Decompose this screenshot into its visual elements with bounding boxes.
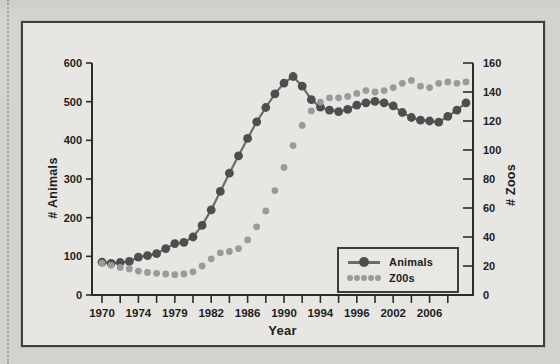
x-axis-tick-label: 2002 xyxy=(380,307,406,319)
data-point xyxy=(161,244,170,253)
data-point xyxy=(454,80,461,87)
chart-frame: 0100200300400500600020406080100120140160… xyxy=(21,21,545,347)
data-point xyxy=(243,134,252,143)
data-point xyxy=(253,223,260,230)
data-point xyxy=(180,238,189,247)
data-point xyxy=(381,87,388,94)
right-axis-tick-label: 20 xyxy=(483,260,495,272)
data-point xyxy=(153,270,160,277)
data-point xyxy=(198,221,207,230)
data-point xyxy=(343,105,352,114)
right-axis-tick-label: 40 xyxy=(483,231,495,243)
left-axis-tick-label: 300 xyxy=(64,173,82,185)
data-point xyxy=(261,103,270,112)
data-point xyxy=(453,106,462,115)
data-point xyxy=(443,112,452,121)
zoos-dots-marker-icon xyxy=(347,273,381,284)
data-point xyxy=(225,169,234,178)
data-point xyxy=(134,253,143,262)
data-point xyxy=(426,84,433,91)
x-axis-tick-label: 1994 xyxy=(308,307,334,319)
chart-plot-area: 0100200300400500600020406080100120140160… xyxy=(23,23,543,345)
left-axis-tick-label: 100 xyxy=(64,250,82,262)
data-point xyxy=(434,118,443,127)
data-point xyxy=(226,248,233,255)
right-axis-tick-label: 160 xyxy=(483,57,501,69)
data-point xyxy=(290,142,297,149)
right-axis-tick-label: 120 xyxy=(483,115,501,127)
data-point xyxy=(171,271,178,278)
x-axis-title: Year xyxy=(92,323,473,338)
data-point xyxy=(353,90,360,97)
legend-label-animals: Animals xyxy=(389,256,433,268)
right-axis-tick-label: 60 xyxy=(483,202,495,214)
data-point xyxy=(325,106,334,115)
data-point xyxy=(352,101,361,110)
data-point xyxy=(380,98,389,107)
data-point xyxy=(207,206,216,215)
data-point xyxy=(144,269,151,276)
left-axis-tick-label: 200 xyxy=(64,212,82,224)
x-axis-tick-label: 1986 xyxy=(235,307,261,319)
data-point xyxy=(399,80,406,87)
left-axis-tick-label: 600 xyxy=(64,57,82,69)
data-point xyxy=(371,97,380,106)
legend-row-animals: Animals xyxy=(347,256,449,269)
x-axis-tick-label: 1970 xyxy=(89,307,115,319)
data-point xyxy=(281,164,288,171)
data-point xyxy=(363,87,370,94)
left-axis-tick-label: 0 xyxy=(76,289,82,301)
data-point xyxy=(398,108,407,117)
data-point xyxy=(362,98,371,107)
data-point xyxy=(152,249,161,258)
x-axis-tick-label: 1979 xyxy=(162,307,188,319)
data-point xyxy=(280,79,289,88)
data-point xyxy=(417,83,424,90)
right-axis-tick-label: 80 xyxy=(483,173,495,185)
left-axis-tick-label: 400 xyxy=(64,134,82,146)
right-axis-tick-label: 140 xyxy=(483,86,501,98)
right-axis-title: # Zoos xyxy=(504,140,520,230)
notebook-margin-dotted-line xyxy=(7,0,9,364)
data-point xyxy=(126,266,133,273)
data-point xyxy=(317,99,324,106)
data-point xyxy=(435,80,442,87)
x-axis-tick-label: 1982 xyxy=(198,307,224,319)
data-point xyxy=(372,89,379,96)
data-point xyxy=(344,93,351,100)
data-point xyxy=(298,82,307,91)
legend-row-zoos: Z00s xyxy=(347,272,449,285)
data-point xyxy=(235,245,242,252)
scanned-page-background: 0100200300400500600020406080100120140160… xyxy=(0,0,560,364)
data-point xyxy=(416,116,425,125)
data-point xyxy=(307,95,316,104)
data-point xyxy=(326,94,333,101)
data-point xyxy=(462,98,471,107)
data-point xyxy=(135,268,142,275)
data-point xyxy=(125,257,134,266)
data-point xyxy=(189,233,198,242)
data-point xyxy=(208,255,215,262)
data-point xyxy=(170,239,179,248)
data-point xyxy=(335,94,342,101)
data-point xyxy=(262,208,269,215)
legend-dot xyxy=(359,257,369,267)
right-axis-tick-label: 0 xyxy=(483,289,489,301)
data-point xyxy=(334,107,343,116)
x-axis-tick-label: 1996 xyxy=(344,307,370,319)
data-point xyxy=(444,79,451,86)
x-axis-tick-label: 1990 xyxy=(271,307,297,319)
data-point xyxy=(181,271,188,278)
data-point xyxy=(199,263,206,270)
legend: Animals Z00s xyxy=(337,247,459,293)
data-point xyxy=(108,262,115,269)
data-point xyxy=(308,108,315,115)
x-axis-tick-label: 2006 xyxy=(417,307,443,319)
data-point xyxy=(408,77,415,84)
data-point xyxy=(289,72,298,81)
legend-label-zoos: Z00s xyxy=(389,272,415,284)
data-point xyxy=(299,122,306,129)
data-point xyxy=(272,187,279,194)
data-point xyxy=(99,260,106,267)
data-point xyxy=(463,79,470,86)
